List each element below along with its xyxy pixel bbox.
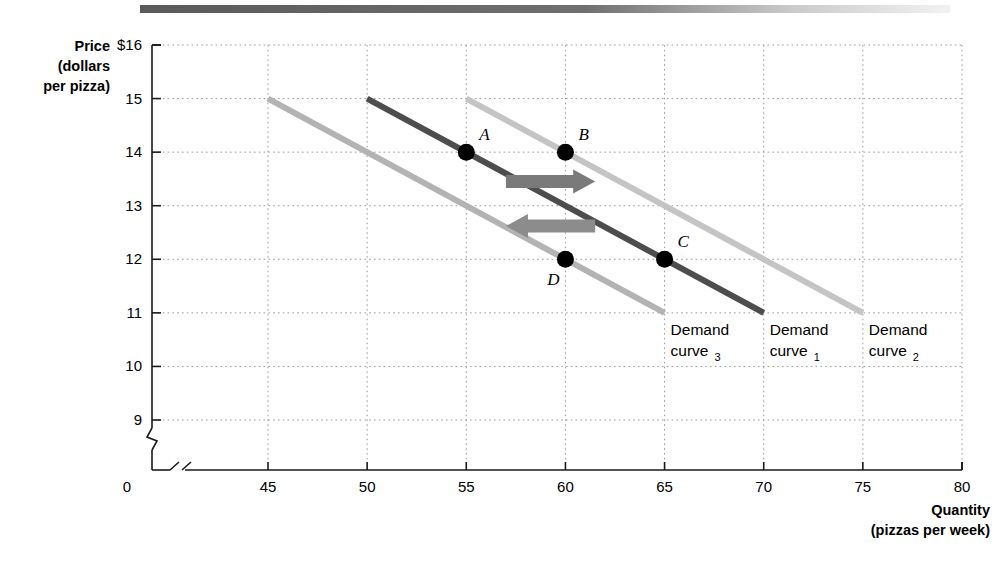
chart-canvas: ABCD $16151413121110945505560657075800 D…	[0, 0, 995, 566]
data-point-label: D	[546, 270, 560, 289]
x-axis-tick-label: 70	[755, 478, 772, 495]
demand-curve-label-index: 3	[715, 351, 721, 363]
y-axis-tick-label: $16	[117, 36, 142, 53]
demand-curve-label-index: 2	[913, 351, 919, 363]
x-axis-break-icon	[170, 462, 191, 470]
x-axis-tick-label: 45	[260, 478, 277, 495]
demand-curve-label-main: Demand	[671, 321, 730, 338]
increase-in-demand-arrow	[506, 170, 595, 194]
demand-curve-label-sub: curve	[869, 342, 907, 359]
y-axis-tick-label: 11	[126, 304, 142, 321]
y-axis-tick-label: 14	[125, 143, 142, 160]
data-point-marker	[656, 251, 673, 268]
demand-curve-label-sub: curve	[671, 342, 709, 359]
demand-curve-label-main: Demand	[770, 321, 829, 338]
annotation-layer	[506, 170, 595, 238]
tick-label-layer: $16151413121110945505560657075800	[117, 36, 970, 495]
figure-root: Price (dollars per pizza) Quantity (pizz…	[0, 0, 995, 566]
data-point-marker	[557, 251, 574, 268]
y-axis-tick-label: 10	[125, 357, 142, 374]
demand-curve-label-main: Demand	[869, 321, 928, 338]
x-axis-tick-label: 80	[954, 478, 971, 495]
y-axis-tick-label: 13	[125, 197, 142, 214]
x-axis-tick-label: 65	[656, 478, 673, 495]
demand-curve-label-index: 1	[814, 351, 820, 363]
demand-curve-label-sub: curve	[770, 342, 808, 359]
x-axis-tick-label: 55	[458, 478, 475, 495]
x-axis-tick-label: 50	[359, 478, 376, 495]
data-point-marker	[458, 144, 475, 161]
data-point-label: B	[578, 125, 589, 144]
y-axis-break-icon	[147, 428, 157, 450]
data-point-label: A	[478, 125, 490, 144]
y-axis-tick-label: 12	[125, 250, 142, 267]
data-point-label: C	[678, 232, 690, 251]
y-axis-tick-label: 9	[134, 411, 142, 428]
origin-label: 0	[123, 478, 131, 495]
x-axis-tick-label: 75	[855, 478, 872, 495]
y-axis-tick-label: 15	[125, 90, 142, 107]
axis-layer	[147, 45, 962, 470]
curve-label-layer: Demandcurve3Demandcurve1Demandcurve2	[671, 321, 928, 363]
data-point-marker	[557, 144, 574, 161]
x-axis-tick-label: 60	[557, 478, 574, 495]
